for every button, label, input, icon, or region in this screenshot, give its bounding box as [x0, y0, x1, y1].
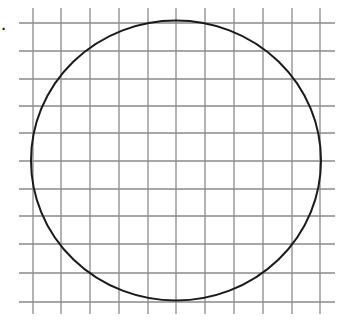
grid-circle-diagram [0, 0, 348, 330]
grid-lines [19, 8, 335, 314]
